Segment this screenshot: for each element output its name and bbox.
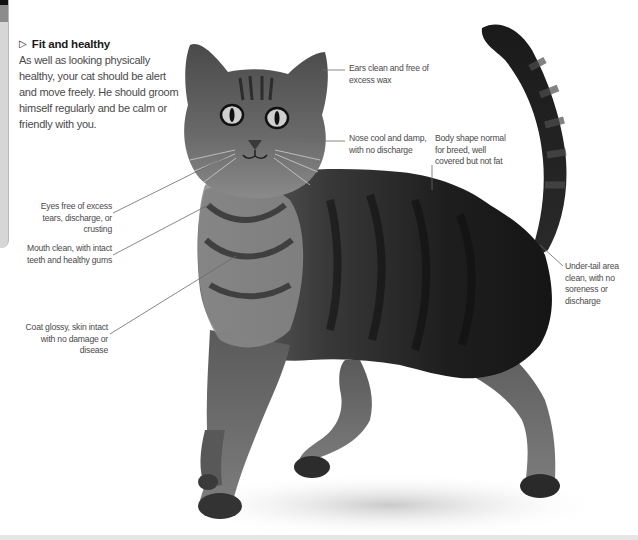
annotation-under-tail: Under-tail area clean, with no soreness … [565,261,635,307]
leader-line-coat [110,256,236,334]
annotation-body-shape: Body shape normal for breed, well covere… [435,133,513,168]
leader-line-mouth [113,203,212,255]
leader-line-under-tail [540,245,563,266]
triangle-right-icon: ▷ [19,36,27,52]
section-heading: ▷ Fit and healthy [19,36,179,52]
annotation-coat: Coat glossy, skin intact with no damage … [20,322,108,357]
annotation-nose: Nose cool and damp, with no discharge [349,133,441,156]
book-page: ▷ Fit and healthy As well as looking phy… [0,0,638,540]
annotation-ears: Ears clean and free of excess wax [349,63,439,86]
leader-line-eyes [113,155,230,213]
intro-section: ▷ Fit and healthy As well as looking phy… [19,36,179,132]
section-body: As well as looking physically healthy, y… [19,52,179,132]
section-heading-text: Fit and healthy [32,36,110,52]
page-bottom-band [0,535,638,540]
annotation-eyes: Eyes free of excess tears, discharge, or… [20,201,112,236]
annotation-mouth: Mouth clean, with intact teeth and healt… [20,243,112,266]
